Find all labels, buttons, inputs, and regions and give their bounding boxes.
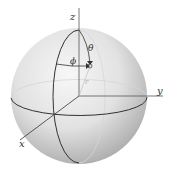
- z-label: z: [69, 11, 76, 22]
- y-label: y: [156, 85, 163, 96]
- x-label: x: [19, 138, 25, 149]
- theta-label: θ: [88, 43, 94, 53]
- spherical-coordinates-diagram: z y x θ ϕ r: [0, 0, 171, 171]
- phi-label: ϕ: [70, 56, 76, 66]
